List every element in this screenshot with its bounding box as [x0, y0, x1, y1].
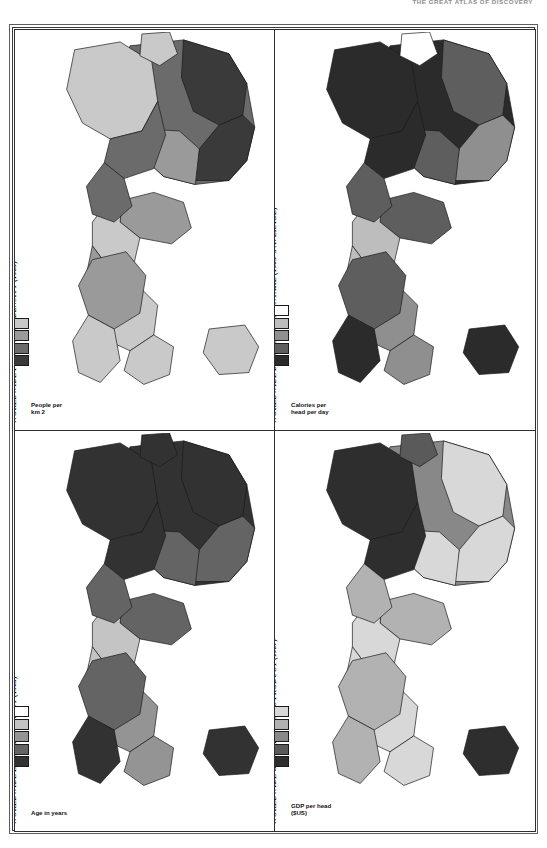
legend-swatch — [14, 719, 29, 730]
legend-entry: 2400–3000 — [274, 343, 289, 354]
legend-life-expectancy: Age in years 65 and over 55–65 45–55 — [15, 706, 29, 826]
legend-items: over 3000 2400–3000 1800–2400 under 1800 — [274, 305, 289, 366]
legend-entry: 1800–2400 — [274, 330, 289, 341]
legend-swatch — [274, 756, 289, 767]
legend-swatch — [274, 731, 289, 742]
legend-swatch — [274, 318, 289, 329]
map-panel-grid: WORLDWIDE POPULATION DENSITY (1985) Peop… — [14, 29, 535, 831]
map-life-expectancy — [35, 433, 273, 829]
panel-life-expectancy[interactable]: WORLDWIDE LIFE EXPECTANCY (1985) Age in … — [14, 430, 276, 832]
map-svg — [35, 32, 273, 428]
legend-entry: no reliable data — [14, 706, 29, 717]
legend-gross-domestic-product: GDP per head ($US) over 17500 12000–1750… — [275, 706, 289, 826]
panel-gross-domestic-product[interactable]: WORLDWIDE GROSS DOMESTIC PRODUCT (1987) … — [274, 430, 536, 832]
legend-swatch — [14, 744, 29, 755]
legend-entry: under 10 — [14, 318, 29, 329]
legend-items: over 250 50–250 10–50 under 10 — [14, 318, 29, 367]
legend-swatch — [274, 330, 289, 341]
legend-heading: Calories per head per day — [291, 401, 347, 415]
legend-swatch — [14, 330, 29, 341]
panel-daily-calorie-intake[interactable]: WORLDWIDE DAILY CALORIE INTAKE (1983–5 A… — [274, 29, 536, 431]
legend-swatch — [14, 706, 29, 717]
legend-entry: over 3000 — [274, 355, 289, 366]
map-svg — [295, 433, 533, 829]
legend-swatch — [274, 343, 289, 354]
map-population-density — [35, 32, 273, 428]
legend-swatch — [14, 318, 29, 329]
legend-entry: under 45 — [14, 719, 29, 730]
map-daily-calorie-intake — [295, 32, 533, 428]
legend-entry: 2500–7500 — [274, 719, 289, 730]
legend-entry: over 17500 — [274, 756, 289, 767]
legend-entry: 2500 or less — [274, 706, 289, 717]
legend-heading: People per km 2 — [31, 401, 87, 415]
legend-swatch — [274, 706, 289, 717]
running-head: THE GREAT ATLAS OF DISCOVERY — [412, 0, 533, 5]
legend-entry: 12000–17500 — [274, 744, 289, 755]
legend-swatch — [274, 355, 289, 366]
legend-entry: 65 and over — [14, 756, 29, 767]
legend-items: 65 and over 55–65 45–55 under 45 — [14, 706, 29, 767]
plate-frame: WORLDWIDE POPULATION DENSITY (1985) Peop… — [9, 24, 538, 834]
map-svg — [295, 32, 533, 428]
legend-entry: no reliable data — [274, 305, 289, 316]
legend-swatch — [274, 719, 289, 730]
legend-heading: Age in years — [31, 809, 87, 816]
legend-items: over 17500 12000–17500 7500–12000 2500–7… — [274, 706, 289, 767]
legend-entry: 45–55 — [14, 731, 29, 742]
legend-swatch — [14, 756, 29, 767]
legend-entry: 50–250 — [14, 343, 29, 354]
legend-swatch — [14, 343, 29, 354]
map-svg — [35, 433, 273, 829]
legend-population-density: People per km 2 over 250 50–250 10–50 — [15, 318, 29, 425]
legend-swatch — [14, 731, 29, 742]
legend-entry: over 250 — [14, 355, 29, 366]
legend-daily-calorie-intake: Calories per head per day over 3000 2400… — [275, 305, 289, 425]
legend-swatch — [274, 744, 289, 755]
legend-entry: 10–50 — [14, 330, 29, 341]
legend-swatch — [14, 355, 29, 366]
legend-entry: 7500–12000 — [274, 731, 289, 742]
panel-population-density[interactable]: WORLDWIDE POPULATION DENSITY (1985) Peop… — [14, 29, 276, 431]
legend-entry: 55–65 — [14, 744, 29, 755]
legend-entry: under 1800 — [274, 318, 289, 329]
legend-swatch — [274, 305, 289, 316]
legend-heading: GDP per head ($US) — [291, 802, 347, 816]
map-gross-domestic-product — [295, 433, 533, 829]
